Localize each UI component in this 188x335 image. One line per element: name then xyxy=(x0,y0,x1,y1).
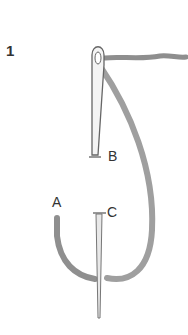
thread-left-arc xyxy=(57,218,95,279)
needle-thread-illustration xyxy=(0,0,188,335)
thread-loop xyxy=(100,66,152,279)
point-label-a: A xyxy=(52,194,61,210)
thread-tail xyxy=(105,56,186,58)
needle-lower xyxy=(93,213,106,318)
needle-upper xyxy=(89,47,104,157)
point-label-c: C xyxy=(107,204,117,220)
point-label-b: B xyxy=(108,148,117,164)
